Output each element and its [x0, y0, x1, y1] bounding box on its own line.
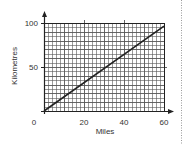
x-axis-title: Miles [96, 127, 115, 136]
x-tick-label-20: 20 [80, 118, 89, 127]
x-axis-arrow-icon [168, 109, 174, 114]
conversion-chart: 0 20 40 60 50 100 Miles Kilometres [0, 0, 184, 144]
y-axis-arrow-icon [42, 11, 47, 17]
x-tick-label-40: 40 [120, 118, 129, 127]
x-tick-label-60: 60 [160, 118, 169, 127]
y-axis-title: Kilometres [10, 47, 19, 85]
y-tick-label-50: 50 [29, 63, 38, 72]
x-tick-label-0: 0 [32, 118, 37, 127]
y-tick-label-100: 100 [25, 19, 39, 28]
